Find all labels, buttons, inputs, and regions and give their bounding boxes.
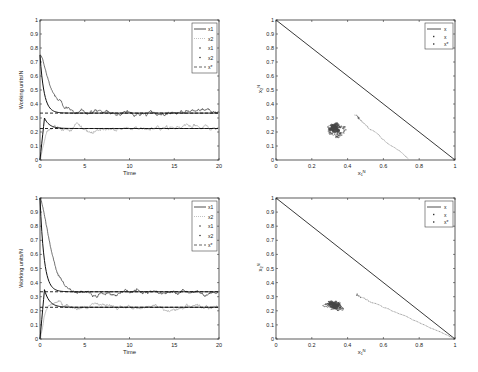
legend-label: x2 [208, 36, 214, 42]
x-tick-label: 0.2 [308, 163, 316, 169]
trajectory [355, 115, 409, 159]
x-tick-label: 0 [274, 163, 277, 169]
y-tick-label: 0.3 [30, 294, 38, 300]
figure-canvas: 00.10.20.30.40.50.60.70.80.9105101520Tim… [0, 0, 478, 372]
legend: xxx* [425, 23, 453, 49]
x-axis-label: x₁ᴺ [358, 349, 366, 355]
y-tick-label: 1 [35, 195, 38, 201]
legend-marker-icon [199, 225, 201, 227]
x-tick-label: 1 [453, 342, 456, 348]
y-tick-label: 0.9 [266, 31, 274, 37]
legend-marker-icon [433, 214, 434, 215]
y-tick-label: 0.2 [266, 129, 274, 135]
legend-label: x1 [208, 204, 214, 210]
legend-marker-icon [199, 235, 201, 237]
x-tick-label: 0.4 [344, 163, 352, 169]
x-tick-label: 20 [216, 342, 222, 348]
y-tick-label: 0.6 [266, 251, 274, 257]
chart-bottom-left: 00.10.20.30.40.50.60.70.80.9105101520Tim… [18, 195, 222, 355]
legend-label: x* [444, 219, 449, 225]
legend-marker-icon [199, 57, 201, 59]
legend-box [425, 23, 453, 49]
cluster-trajectory [327, 122, 346, 138]
y-tick-label: 0.4 [266, 101, 274, 107]
legend-label: x* [208, 64, 213, 70]
y-tick-label: 1 [271, 17, 274, 23]
series-x2-stochastic [40, 301, 219, 339]
y-tick-label: 0.8 [30, 223, 38, 229]
legend-label: x* [444, 41, 449, 47]
y-tick-label: 0.5 [30, 87, 38, 93]
x-axis-label: Time [123, 349, 137, 355]
y-tick-label: 0.2 [266, 308, 274, 314]
series-x1-deterministic [40, 198, 218, 292]
y-tick-label: 0.1 [266, 143, 274, 149]
legend-label: x1 [208, 223, 214, 229]
cluster-trajectory [323, 301, 344, 311]
y-tick-label: 0.9 [30, 209, 38, 215]
y-tick-label: 0.3 [266, 115, 274, 121]
y-tick-label: 0.3 [30, 115, 38, 121]
y-tick-label: 0.6 [266, 73, 274, 79]
x-tick-label: 1 [453, 163, 456, 169]
legend-label: x1 [208, 26, 214, 32]
x-tick-label: 10 [126, 163, 132, 169]
y-tick-label: 0.5 [266, 266, 274, 272]
y-tick-label: 0.7 [266, 59, 274, 65]
x-tick-label: 0.4 [344, 342, 352, 348]
y-tick-label: 0.6 [30, 251, 38, 257]
y-tick-label: 0.1 [30, 143, 38, 149]
series-x2-deterministic [40, 118, 218, 160]
chart-bottom-right: 00.10.20.30.40.50.60.70.80.9100.20.40.60… [257, 195, 457, 355]
y-tick-label: 0.7 [266, 237, 274, 243]
y-tick-label: 1 [35, 17, 38, 23]
legend-label: x2 [208, 55, 214, 61]
x-tick-label: 0 [38, 163, 41, 169]
x-axis-label: Time [123, 170, 137, 176]
x-tick-label: 5 [83, 163, 86, 169]
y-tick-label: 0.5 [266, 87, 274, 93]
x-tick-label: 15 [171, 163, 177, 169]
x-tick-label: 0.8 [415, 163, 423, 169]
y-tick-label: 0.7 [30, 59, 38, 65]
y-tick-label: 0.4 [30, 101, 38, 107]
legend-label: x2 [208, 214, 214, 220]
x-tick-label: 5 [83, 342, 86, 348]
x-tick-label: 10 [126, 342, 132, 348]
legend-marker-icon [433, 43, 434, 44]
y-tick-label: 0.2 [30, 308, 38, 314]
trajectory [356, 294, 452, 338]
y-tick-label: 0.9 [30, 31, 38, 37]
legend: x1x2x1x2x* [192, 201, 217, 251]
x-tick-label: 0.2 [308, 342, 316, 348]
y-tick-label: 0.9 [266, 209, 274, 215]
chart-top-right: 00.10.20.30.40.50.60.70.80.9100.20.40.60… [257, 17, 457, 176]
legend-label: x* [208, 242, 213, 248]
x-tick-label: 20 [216, 163, 222, 169]
legend: xxx* [425, 201, 453, 227]
legend: x1x2x1x2x* [192, 23, 217, 73]
legend-marker-icon [433, 36, 434, 37]
y-tick-label: 0.1 [30, 322, 38, 328]
y-tick-label: 0.3 [266, 294, 274, 300]
y-tick-label: 0.6 [30, 73, 38, 79]
y-tick-label: 0.1 [266, 322, 274, 328]
series-x1-deterministic [40, 55, 218, 113]
y-tick-label: 1 [271, 195, 274, 201]
x-tick-label: 0.8 [415, 342, 423, 348]
y-axis-label: Working units/N [18, 71, 24, 110]
y-tick-label: 0.8 [30, 45, 38, 51]
legend-label: x1 [208, 45, 214, 51]
legend-box [425, 201, 453, 227]
y-tick-label: 0.7 [30, 237, 38, 243]
x-tick-label: 0 [38, 342, 41, 348]
y-tick-label: 0.4 [266, 280, 274, 286]
legend-marker-icon [199, 47, 201, 49]
x-tick-label: 0.6 [380, 163, 388, 169]
x-tick-label: 15 [171, 342, 177, 348]
y-tick-label: 0.8 [266, 45, 274, 51]
legend-marker-icon [433, 221, 434, 222]
y-tick-label: 0.5 [30, 266, 38, 272]
x-tick-label: 0 [274, 342, 277, 348]
series-x2-deterministic [40, 290, 218, 339]
